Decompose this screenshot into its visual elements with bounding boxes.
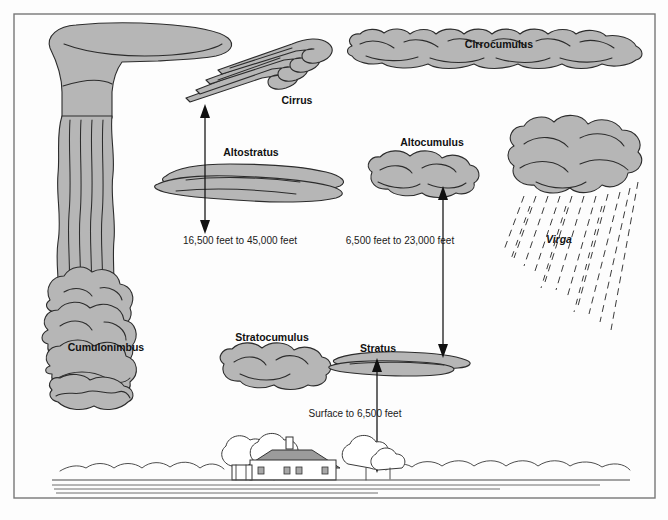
window-4 [322, 467, 328, 474]
diagram-canvas: Cumulonimbus Cirrus Cirrocumulus [0, 0, 668, 520]
altitude-arrow-middle [438, 186, 448, 358]
arrow-head-down-high [200, 220, 210, 234]
chimney [286, 437, 293, 449]
stratocumulus-cloud [220, 343, 331, 390]
cloud-label-altocumulus: Altocumulus [400, 136, 464, 148]
ground-scene [52, 433, 630, 493]
cloud-label-cirrocumulus: Cirrocumulus [465, 38, 533, 50]
window-1 [258, 467, 264, 474]
virga-streaks [504, 182, 638, 330]
virga-cloud [504, 115, 642, 330]
cloud-label-cumulonimbus: Cumulonimbus [68, 341, 145, 353]
altocumulus-cloud [368, 151, 479, 198]
cloud-label-virga: Virga [546, 233, 572, 245]
altostratus-cloud [155, 164, 344, 202]
cloud-label-altostratus: Altostratus [223, 146, 279, 158]
altitude-label-high: 16,500 feet to 45,000 feet [183, 235, 297, 246]
altitude-label-middle: 6,500 feet to 23,000 feet [346, 235, 455, 246]
cloud-label-cirrus: Cirrus [282, 94, 313, 106]
window-3 [296, 467, 302, 474]
cloud-label-stratus: Stratus [360, 342, 396, 354]
stratus-cloud [329, 352, 470, 376]
altitude-label-low: Surface to 6,500 feet [309, 408, 402, 419]
window-2 [284, 467, 290, 474]
cloud-label-stratocumulus: Stratocumulus [235, 331, 309, 343]
porch [232, 465, 252, 480]
cloud-types-diagram: Cumulonimbus Cirrus Cirrocumulus [0, 0, 668, 520]
arrow-head-up-high [200, 104, 210, 118]
